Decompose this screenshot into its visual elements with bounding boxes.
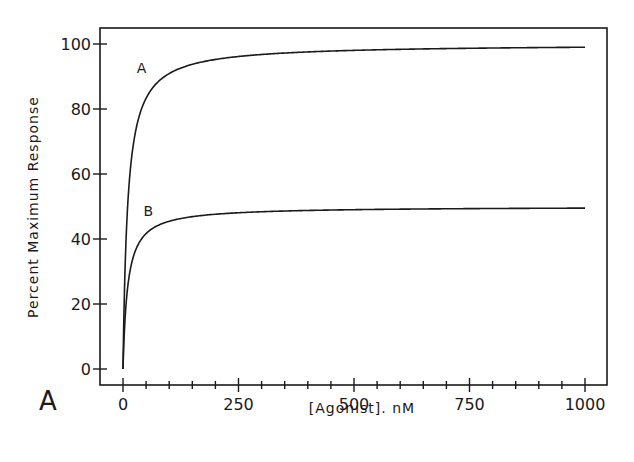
x-tick-label: 750: [454, 395, 485, 414]
x-tick-label: 0: [118, 395, 128, 414]
curve-label-b: B: [144, 203, 154, 219]
y-tick-label: 80: [71, 100, 91, 119]
panel-label: A: [39, 386, 57, 416]
plot-frame: [100, 28, 607, 385]
x-tick-label: 1000: [565, 395, 606, 414]
y-tick-label: 20: [71, 295, 91, 314]
curves: [123, 47, 585, 369]
x-axis-label: [Agonist]. nM: [309, 400, 415, 416]
curve-annotations: AB: [137, 60, 154, 219]
dose-response-chart: 020406080100 02505007501000 AB [Agonist]…: [0, 0, 634, 462]
y-axis-label: Percent Maximum Response: [25, 96, 41, 318]
y-tick-label: 60: [71, 165, 91, 184]
curve-b: [123, 208, 585, 369]
y-tick-label: 40: [71, 230, 91, 249]
y-tick-label: 0: [81, 360, 91, 379]
y-tick-label: 100: [60, 35, 91, 54]
curve-label-a: A: [137, 60, 147, 76]
x-tick-label: 250: [223, 395, 254, 414]
